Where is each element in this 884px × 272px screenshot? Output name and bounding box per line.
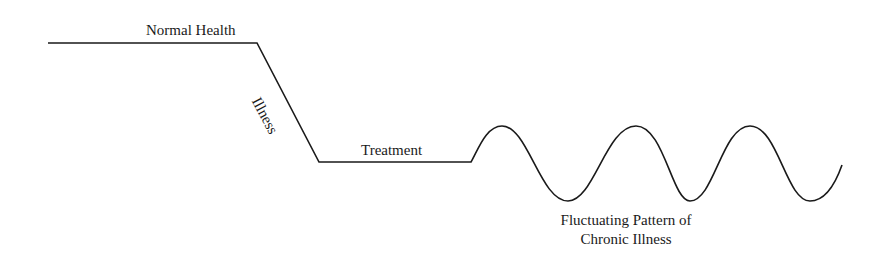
normal-health-label: Normal Health (146, 23, 236, 38)
chronic-illness-label: Fluctuating Pattern of Chronic Illness (548, 211, 704, 249)
trajectory-line (0, 0, 884, 272)
illness-trajectory-diagram: Normal Health Illness Treatment Fluctuat… (0, 0, 884, 272)
treatment-label: Treatment (361, 143, 422, 158)
health-path (48, 43, 842, 201)
chronic-label-line1: Fluctuating Pattern of (548, 211, 704, 230)
chronic-label-line2: Chronic Illness (548, 230, 704, 249)
